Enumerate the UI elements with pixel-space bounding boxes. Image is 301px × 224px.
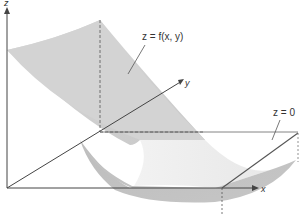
z-axis-arrow-icon — [4, 7, 10, 14]
y-axis-label: y — [184, 78, 190, 88]
z-axis-label: z — [3, 0, 9, 8]
plane-leader-line — [272, 120, 280, 140]
plane-label: z = 0 — [273, 107, 295, 118]
x-axis-label: x — [260, 184, 266, 194]
y-axis-arrow-icon — [178, 79, 184, 85]
surface-diagram: z y x z = f(x, y) z = 0 — [0, 0, 301, 224]
surface-label: z = f(x, y) — [142, 31, 183, 42]
